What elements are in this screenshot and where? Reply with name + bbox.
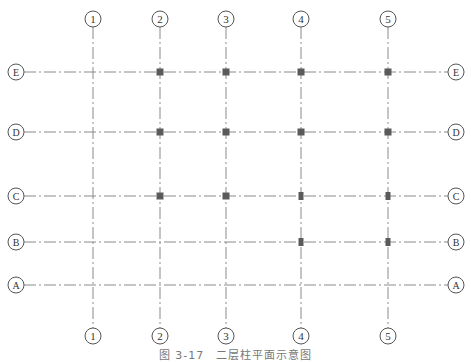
axis-label: 3 — [223, 330, 229, 342]
column-4C — [299, 192, 304, 200]
axis-bubble-D-right: D — [448, 124, 464, 140]
axis-bubble-C-left: C — [8, 188, 24, 204]
axis-label: 4 — [298, 330, 304, 342]
column-5B — [386, 238, 391, 246]
axis-bubble-3-bottom: 3 — [218, 328, 234, 344]
axis-bubble-E-left: E — [8, 64, 24, 80]
axis-bubble-4-bottom: 4 — [293, 328, 309, 344]
axis-bubble-B-left: B — [8, 234, 24, 250]
axis-bubble-A-left: A — [8, 277, 24, 293]
column-5C — [386, 192, 391, 200]
axis-bubble-D-left: D — [8, 124, 24, 140]
column-2C — [157, 193, 164, 200]
axis-bubble-A-right: A — [448, 277, 464, 293]
axis-label: D — [12, 127, 19, 138]
axis-label: 1 — [90, 330, 96, 342]
axis-label: A — [452, 280, 460, 291]
axis-bubble-3-top: 3 — [218, 11, 234, 27]
axis-label: 5 — [385, 330, 391, 342]
axis-bubble-2-top: 2 — [152, 11, 168, 27]
axis-bubble-1-top: 1 — [85, 11, 101, 27]
axis-label: 2 — [157, 13, 163, 25]
columns — [157, 69, 392, 247]
axis-label: 1 — [90, 13, 96, 25]
axis-label: C — [453, 191, 460, 202]
axis-bubble-B-right: B — [448, 234, 464, 250]
column-4E — [298, 69, 305, 76]
grid-lines — [24, 27, 448, 328]
axis-label: B — [13, 237, 20, 248]
axis-label: E — [453, 67, 459, 78]
figure-caption: 图 3-17 二层柱平面示意图 — [0, 346, 471, 362]
axis-label: A — [12, 280, 20, 291]
column-3E — [223, 69, 230, 76]
column-2D — [157, 129, 164, 136]
column-5D — [385, 129, 392, 136]
axis-bubble-5-top: 5 — [380, 11, 396, 27]
axis-label: 4 — [298, 13, 304, 25]
column-2E — [157, 69, 164, 76]
axis-label: 2 — [157, 330, 163, 342]
column-5E — [385, 69, 392, 76]
axis-label: E — [13, 67, 19, 78]
axis-bubble-4-top: 4 — [293, 11, 309, 27]
column-3D — [223, 129, 230, 136]
axis-bubble-2-bottom: 2 — [152, 328, 168, 344]
axis-bubble-E-right: E — [448, 64, 464, 80]
axis-label: D — [452, 127, 459, 138]
axis-label: 3 — [223, 13, 229, 25]
axis-label: B — [453, 237, 460, 248]
axis-bubble-1-bottom: 1 — [85, 328, 101, 344]
column-3C — [223, 193, 230, 200]
column-4B — [299, 238, 304, 246]
axis-label: 5 — [385, 13, 391, 25]
column-4D — [298, 129, 305, 136]
axis-bubble-C-right: C — [448, 188, 464, 204]
axis-label: C — [13, 191, 20, 202]
axis-bubble-5-bottom: 5 — [380, 328, 396, 344]
axis-bubbles: 1122334455EEDDCCBBAA — [8, 11, 464, 344]
